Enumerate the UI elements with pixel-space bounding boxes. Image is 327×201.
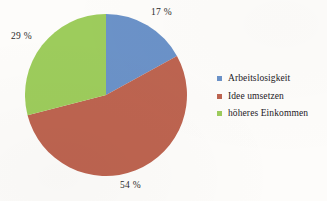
legend-swatch-icon bbox=[217, 76, 222, 81]
pie-svg bbox=[25, 14, 187, 176]
pie-chart-graphic bbox=[25, 14, 187, 176]
pie-chart-figure: 17 % 54 % 29 % Arbeitslosigkeit Idee ums… bbox=[0, 0, 327, 201]
chart-legend: Arbeitslosigkeit Idee umsetzen höheres E… bbox=[217, 70, 327, 123]
legend-swatch-icon bbox=[217, 111, 222, 116]
legend-item-label: Arbeitslosigkeit bbox=[228, 74, 290, 84]
data-label-slice-1: 17 % bbox=[151, 7, 172, 17]
data-label-slice-2: 54 % bbox=[120, 180, 141, 190]
legend-item-hoeheres-einkommen[interactable]: höheres Einkommen bbox=[217, 105, 327, 123]
legend-item-idee-umsetzen[interactable]: Idee umsetzen bbox=[217, 88, 327, 106]
pie-slices bbox=[25, 14, 187, 176]
legend-swatch-icon bbox=[217, 94, 222, 99]
legend-item-arbeitslosigkeit[interactable]: Arbeitslosigkeit bbox=[217, 70, 327, 88]
data-label-slice-3: 29 % bbox=[11, 31, 32, 41]
legend-item-label: Idee umsetzen bbox=[228, 92, 284, 102]
legend-item-label: höheres Einkommen bbox=[228, 109, 308, 119]
